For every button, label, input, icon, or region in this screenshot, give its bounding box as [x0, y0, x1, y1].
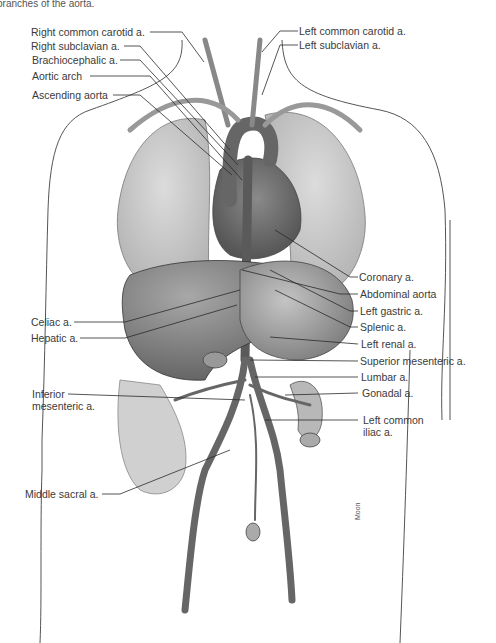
label-left-common-iliac-line1: Left common — [363, 414, 424, 426]
label-middle-sacral: Middle sacral a. — [25, 488, 99, 500]
left-kidney — [290, 381, 322, 438]
label-right-common-carotid: Right common carotid a. — [31, 26, 145, 38]
bladder-segment — [300, 433, 320, 447]
label-gonadal: Gonadal a. — [362, 387, 413, 399]
label-left-common-carotid: Left common carotid a. — [299, 25, 406, 37]
label-hepatic: Hepatic a. — [31, 332, 78, 344]
label-abdominal-aorta: Abdominal aorta — [360, 288, 436, 300]
label-superior-mesenteric: Superior mesenteric a. — [360, 355, 466, 367]
label-ascending-aorta: Ascending aorta — [32, 89, 108, 101]
label-left-common-iliac-line2: iliac a. — [363, 426, 393, 438]
label-inferior-mesenteric-line1: Inferior — [32, 388, 65, 400]
intestine-segment — [203, 352, 227, 368]
label-left-subclavian: Left subclavian a. — [299, 39, 381, 51]
label-left-renal: Left renal a. — [361, 338, 416, 350]
gonad — [246, 523, 260, 541]
label-lumbar: Lumbar a. — [361, 371, 408, 383]
label-splenic: Splenic a. — [360, 321, 406, 333]
label-coronary: Coronary a. — [359, 271, 414, 283]
artist-signature: Moon — [354, 502, 361, 520]
label-celiac: Celiac a. — [31, 316, 72, 328]
iliac-arteries — [175, 360, 310, 610]
label-brachiocephalic: Brachiocephalic a. — [32, 54, 118, 66]
label-inferior-mesenteric-line2: mesenteric a. — [32, 400, 95, 412]
label-aortic-arch: Aortic arch — [32, 70, 82, 82]
label-right-subclavian: Right subclavian a. — [31, 40, 120, 52]
label-left-gastric: Left gastric a. — [360, 305, 423, 317]
